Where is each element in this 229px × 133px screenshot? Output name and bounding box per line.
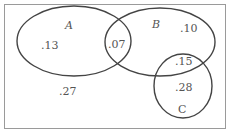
- region-a-and-b: .07: [108, 38, 126, 51]
- region-c-only: .28: [175, 81, 193, 94]
- venn-diagram: A B C .13 .07 .10 .15 .28 .27: [0, 0, 229, 133]
- region-b-and-c: .15: [175, 55, 193, 68]
- set-b-label: B: [151, 18, 160, 31]
- region-outside: .27: [59, 85, 77, 98]
- set-c-label: C: [178, 103, 186, 116]
- set-a-label: A: [64, 19, 73, 32]
- region-b-only: .10: [180, 22, 198, 35]
- region-a-only: .13: [41, 39, 59, 52]
